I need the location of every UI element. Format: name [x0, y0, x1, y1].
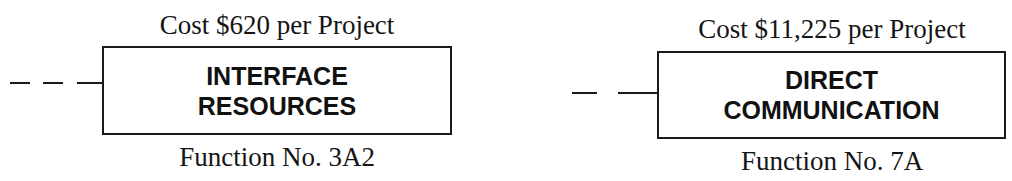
function-title-line1: DIRECT	[785, 65, 878, 95]
function-number: Function No. 7A	[657, 146, 1007, 177]
dashed-connector-segment	[618, 92, 658, 94]
dashed-connector-segment	[43, 82, 63, 84]
function-box: DIRECT COMMUNICATION	[657, 51, 1006, 139]
cost-label: Cost $620 per Project	[102, 10, 452, 41]
function-title-line2: COMMUNICATION	[723, 95, 939, 125]
dashed-connector-segment	[572, 92, 597, 94]
cost-label: Cost $11,225 per Project	[657, 14, 1007, 45]
dashed-connector-segment	[10, 82, 30, 84]
function-title-line1: INTERFACE	[206, 61, 348, 91]
function-number: Function No. 3A2	[102, 142, 452, 173]
dashed-connector-segment	[77, 82, 103, 84]
function-box: INTERFACE RESOURCES	[102, 46, 452, 135]
function-title-line2: RESOURCES	[198, 91, 356, 121]
